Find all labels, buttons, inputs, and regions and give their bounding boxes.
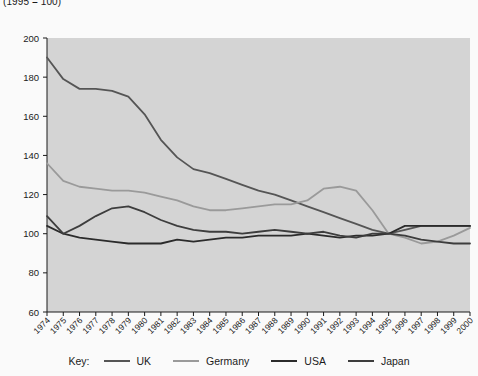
- x-tick-label: 1981: [145, 315, 166, 336]
- y-tick-label: 140: [23, 150, 39, 161]
- x-tick-label: 1995: [373, 315, 394, 336]
- x-tick-label: 1983: [178, 315, 199, 336]
- legend-label-germany: Germany: [206, 355, 249, 367]
- x-tick-label: 1994: [357, 315, 378, 336]
- units-note: (1995 = 100): [3, 0, 61, 7]
- legend-title: Key:: [69, 355, 90, 367]
- legend-swatch-japan: [348, 360, 374, 363]
- x-tick-label: 1989: [276, 315, 297, 336]
- legend-swatch-germany: [173, 360, 199, 363]
- x-tick-label: 1978: [97, 315, 118, 336]
- x-tick-label: 1977: [80, 315, 101, 336]
- legend-label-japan: Japan: [381, 355, 410, 367]
- chart-legend: Key: UK Germany USA Japan: [0, 350, 478, 372]
- x-tick-label: 1993: [341, 315, 362, 336]
- legend-item-usa: USA: [271, 355, 326, 367]
- legend-item-uk: UK: [104, 355, 152, 367]
- x-tick-label: 1992: [324, 315, 345, 336]
- x-tick-label: 2000: [454, 315, 475, 336]
- x-tick-label: 1988: [259, 315, 280, 336]
- x-tick-label: 1990: [292, 315, 313, 336]
- legend-label-uk: UK: [137, 355, 152, 367]
- x-tick-label: 1999: [438, 315, 459, 336]
- y-tick-label: 180: [23, 72, 39, 83]
- y-tick-label: 160: [23, 111, 39, 122]
- x-tick-label: 1976: [64, 315, 85, 336]
- x-tick-label: 1997: [406, 315, 427, 336]
- legend-label-usa: USA: [304, 355, 326, 367]
- plot-background: [47, 38, 470, 312]
- x-tick-label: 1996: [389, 315, 410, 336]
- x-tick-label: 1982: [162, 315, 183, 336]
- x-tick-label: 1980: [129, 315, 150, 336]
- x-tick-label: 1984: [194, 315, 215, 336]
- y-tick-label: 200: [23, 33, 39, 44]
- legend-item-germany: Germany: [173, 355, 249, 367]
- chart-page: (1995 = 100) 608010012014016018020019741…: [0, 0, 478, 376]
- x-tick-label: 1985: [210, 315, 231, 336]
- legend-swatch-uk: [104, 360, 130, 363]
- legend-swatch-usa: [271, 360, 297, 363]
- x-tick-label: 1987: [243, 315, 264, 336]
- x-tick-label: 1991: [308, 315, 329, 336]
- x-tick-label: 1986: [227, 315, 248, 336]
- x-tick-label: 1974: [31, 315, 52, 336]
- y-tick-label: 60: [28, 307, 39, 318]
- chart-canvas: 6080100120140160180200197419751976197719…: [0, 12, 478, 348]
- x-tick-label: 1975: [48, 315, 69, 336]
- y-tick-label: 120: [23, 189, 39, 200]
- x-tick-label: 1979: [113, 315, 134, 336]
- y-tick-label: 80: [28, 267, 39, 278]
- legend-item-japan: Japan: [348, 355, 410, 367]
- line-chart: 6080100120140160180200197419751976197719…: [0, 12, 478, 348]
- x-tick-label: 1998: [422, 315, 443, 336]
- y-tick-label: 100: [23, 228, 39, 239]
